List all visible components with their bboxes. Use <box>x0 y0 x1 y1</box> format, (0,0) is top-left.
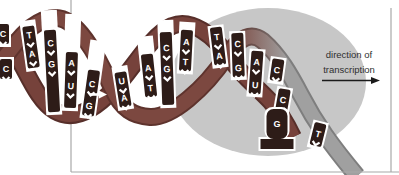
base-pair-column: C <box>0 57 14 82</box>
direction-label-line2: transcription <box>323 64 375 75</box>
base-letter: U <box>67 81 74 91</box>
base-letter: G <box>273 119 280 129</box>
direction-label-line1: direction of <box>326 49 373 60</box>
base-letter: A <box>68 58 75 68</box>
base-pair-column: AU <box>246 48 265 97</box>
transcription-diagram: CCTACGAUCGUAATCGATTACGAUCCTG direction o… <box>0 0 399 175</box>
base-letter: C <box>234 39 241 49</box>
base-pair-column: CG <box>229 31 247 81</box>
nucleotide-base <box>261 139 294 149</box>
base-letter: G <box>85 101 93 112</box>
base-letter: C <box>0 29 7 39</box>
base-letter: G <box>235 63 242 73</box>
base-pair-column: AU <box>62 14 81 111</box>
base-letter: G <box>163 64 170 74</box>
base-pair-column: AT <box>177 22 196 75</box>
transcription-figure: CCTACGAUCGUAATCGATTACGAUCCTG direction o… <box>0 0 399 175</box>
base-letter: A <box>253 57 261 67</box>
base-pair-column: CG <box>157 20 176 109</box>
base-letter: A <box>183 37 191 47</box>
base-pair-column: C <box>0 22 11 47</box>
base-letter: C <box>3 64 10 74</box>
base-letter: C <box>163 43 170 53</box>
base-letter: G <box>48 59 56 69</box>
base-letter: T <box>182 57 189 67</box>
base-letter: U <box>252 80 259 90</box>
base-letter: C <box>47 38 55 48</box>
